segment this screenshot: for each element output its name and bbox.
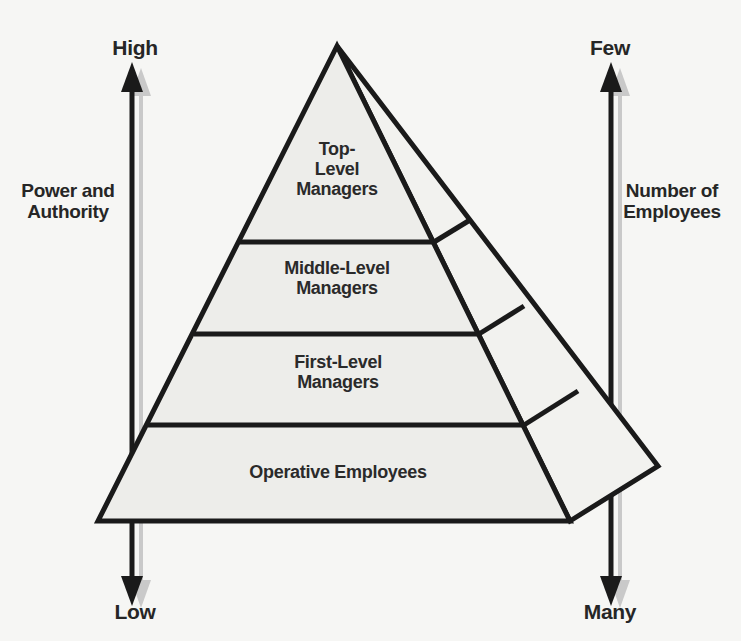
- left-axis-bottom-label: Low: [103, 600, 167, 624]
- tier-label-first-level: First-Level Managers: [256, 352, 420, 392]
- tier-label-operative-employees: Operative Employees: [200, 462, 476, 482]
- tier-label-top-level: Top- Level Managers: [276, 139, 398, 199]
- left-axis-top-label: High: [103, 36, 167, 60]
- pyramid-diagram-svg: [0, 0, 741, 641]
- right-axis-bottom-label: Many: [572, 600, 648, 624]
- right-axis-title: Number of Employees: [608, 180, 736, 223]
- pyramid-diagram-canvas: High Low Power and Authority Few Many Nu…: [0, 0, 741, 641]
- right-axis-top-label: Few: [578, 36, 642, 60]
- left-axis-title: Power and Authority: [8, 180, 128, 223]
- tier-label-middle-level: Middle-Level Managers: [251, 258, 423, 298]
